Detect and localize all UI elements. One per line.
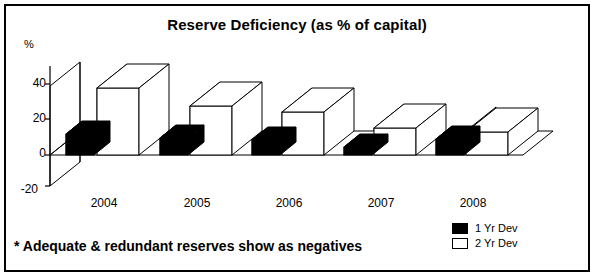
legend-item-2yr: 2 Yr Dev — [452, 237, 518, 249]
x-tick-2007: 2007 — [341, 196, 421, 210]
x-tick-2008: 2008 — [433, 196, 513, 210]
chart-legend: 1 Yr Dev 2 Yr Dev — [452, 222, 518, 252]
x-tick-2004: 2004 — [64, 196, 144, 210]
legend-swatch-1yr-icon — [452, 223, 468, 234]
legend-label-2yr: 2 Yr Dev — [475, 237, 518, 249]
y-tick-40: 40 — [12, 76, 46, 90]
chart-title: Reserve Deficiency (as % of capital) — [0, 16, 594, 33]
legend-label-1yr: 1 Yr Dev — [475, 222, 518, 234]
x-tick-2006: 2006 — [249, 196, 329, 210]
chart-annotation: * Adequate & redundant reserves show as … — [14, 238, 362, 254]
chart-figure: Reserve Deficiency (as % of capital) % 4… — [0, 0, 594, 276]
legend-swatch-2yr-icon — [452, 238, 468, 249]
legend-item-1yr: 1 Yr Dev — [452, 222, 518, 234]
y-axis-label: % — [24, 38, 34, 50]
y-tick-neg20: -20 — [4, 182, 38, 196]
y-tick-20: 20 — [12, 111, 46, 125]
x-tick-2005: 2005 — [157, 196, 237, 210]
y-tick-0: 0 — [12, 146, 46, 160]
